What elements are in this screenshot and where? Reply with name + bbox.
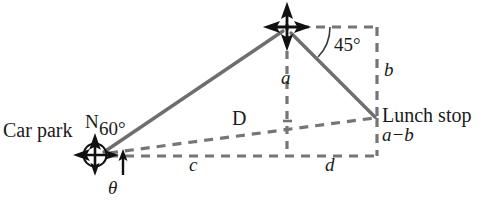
geometry-diagram: Car park N 60° θ c d D a b 45° Lunch sto… [0,0,479,205]
label-distance-D: D [232,108,246,128]
compass-north-arrow [92,137,99,166]
compass-rose-car-park [77,137,117,174]
label-theta-angle: θ [108,178,117,197]
label-side-c: c [189,155,197,174]
label-side-d: d [325,155,335,174]
label-angle-45-degrees: 45° [334,35,361,54]
label-lunch-stop: Lunch stop [382,105,471,125]
label-height-a: a [281,68,291,87]
theta-leader-arrow [119,149,128,175]
apex-right-arrow [297,24,307,31]
compass-south-arrow [92,164,99,174]
label-north-direction: N [85,112,99,131]
angle-arc-45 [318,27,330,57]
diagram-canvas [0,0,479,205]
label-height-b: b [384,60,394,79]
angle-arcs-group [318,27,330,57]
label-angle-60-degrees: 60° [99,119,126,138]
edge-apex-lunch-stop [291,33,375,117]
label-lunch-stop-height: a−b [382,125,414,144]
label-car-park: Car park [3,120,72,140]
